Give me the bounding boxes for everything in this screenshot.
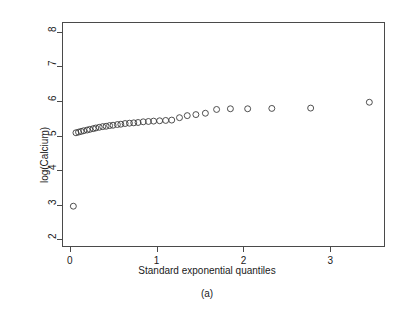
data-point bbox=[163, 117, 169, 123]
data-point bbox=[269, 105, 275, 111]
data-point bbox=[245, 106, 251, 112]
plot-frame bbox=[62, 22, 385, 247]
data-point bbox=[184, 113, 190, 119]
data-point bbox=[177, 115, 183, 121]
x-tick-mark bbox=[330, 247, 331, 252]
data-point bbox=[366, 99, 372, 105]
x-tick-mark bbox=[70, 247, 71, 252]
x-axis-label: Standard exponential quantiles bbox=[0, 265, 414, 276]
figure-caption: (a) bbox=[0, 288, 414, 299]
data-point bbox=[70, 203, 76, 209]
data-point bbox=[308, 105, 314, 111]
data-point bbox=[202, 110, 208, 116]
data-point bbox=[193, 112, 199, 118]
x-tick-mark bbox=[243, 247, 244, 252]
x-tick-mark bbox=[157, 247, 158, 252]
scatter-points-layer bbox=[63, 23, 384, 246]
figure-panel: log(Calcium) 2345678 0123 Standard expon… bbox=[0, 0, 414, 309]
data-point bbox=[227, 106, 233, 112]
data-point bbox=[169, 117, 175, 123]
data-point bbox=[214, 106, 220, 112]
data-point bbox=[157, 118, 163, 124]
